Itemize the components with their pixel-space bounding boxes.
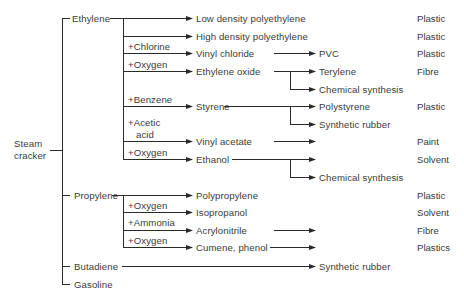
use-acrylonitrile: Fibre bbox=[417, 225, 439, 236]
product-ethylene: Ethylene bbox=[72, 13, 110, 24]
downstream-terylene: Terylene bbox=[319, 66, 356, 77]
reagent-acetic-line1: +Acetic bbox=[128, 117, 160, 128]
propylene-product-acrylonitrile: Acrylonitrile bbox=[196, 225, 247, 236]
downstream-synthetic-rubber-2: Synthetic rubber bbox=[319, 261, 390, 272]
propylene-product-cumene-phenol: Cumene, phenol bbox=[196, 242, 268, 253]
ethylene-product-hdpe: High density polyethylene bbox=[196, 31, 308, 42]
use-isopropanol: Solvent bbox=[417, 207, 449, 218]
ethylene-product-ethylene-oxide: Ethylene oxide bbox=[196, 66, 260, 77]
propylene-product-polypropylene: Polypropylene bbox=[196, 190, 258, 201]
reagent-oxygen-1: +Oxygen bbox=[128, 59, 167, 70]
reagent-oxygen-4: +Oxygen bbox=[128, 235, 167, 246]
ethylene-product-styrene: Styrene bbox=[196, 101, 230, 112]
use-vinyl-acetate: Paint bbox=[417, 136, 439, 147]
downstream-chemical-synthesis-2: Chemical synthesis bbox=[319, 172, 403, 183]
product-butadiene: Butadiene bbox=[74, 261, 118, 272]
root-cracker-label: cracker bbox=[14, 150, 46, 161]
product-gasoline: Gasoline bbox=[74, 279, 113, 290]
ethylene-product-ldpe: Low density polyethylene bbox=[196, 13, 306, 24]
reagent-oxygen-3: +Oxygen bbox=[128, 200, 167, 211]
propylene-product-isopropanol: Isopropanol bbox=[196, 207, 247, 218]
product-propylene: Propylene bbox=[74, 190, 118, 201]
downstream-pvc: PVC bbox=[319, 48, 339, 59]
reagent-acetic-line2: acid bbox=[136, 129, 154, 140]
root-steam-label: Steam bbox=[14, 138, 42, 149]
downstream-synthetic-rubber-1: Synthetic rubber bbox=[319, 119, 390, 130]
reagent-benzene: +Benzene bbox=[128, 94, 172, 105]
use-polypropylene: Plastic bbox=[417, 190, 445, 201]
ethylene-product-ethanol: Ethanol bbox=[196, 154, 229, 165]
use-pvc: Plastic bbox=[417, 48, 445, 59]
steam-cracker-diagram: Steam cracker Ethylene Propylene Butadie… bbox=[0, 0, 464, 298]
reagent-oxygen-2: +Oxygen bbox=[128, 147, 167, 158]
reagent-ammonia: +Ammonia bbox=[128, 217, 175, 228]
reagent-chlorine: +Chlorine bbox=[128, 41, 170, 52]
ethylene-product-vinyl-chloride: Vinyl chloride bbox=[196, 48, 254, 59]
use-ldpe: Plastic bbox=[417, 13, 445, 24]
use-ethanol: Solvent bbox=[417, 154, 449, 165]
downstream-polystyrene: Polystyrene bbox=[319, 101, 370, 112]
use-polystyrene: Plastic bbox=[417, 101, 445, 112]
use-terylene: Fibre bbox=[417, 66, 439, 77]
use-cumene-phenol: Plastics bbox=[417, 242, 450, 253]
connector-lines bbox=[0, 0, 464, 298]
use-hdpe: Plastic bbox=[417, 31, 445, 42]
ethylene-product-vinyl-acetate: Vinyl acetate bbox=[196, 136, 252, 147]
downstream-chemical-synthesis-1: Chemical synthesis bbox=[319, 84, 403, 95]
